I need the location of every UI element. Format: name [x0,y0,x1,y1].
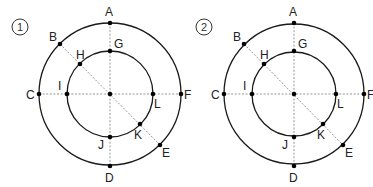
point-label-i: I [58,79,61,93]
point-label-k: K [134,128,142,142]
point-label-h: H [260,48,269,62]
point-k [321,122,326,127]
point-g [292,49,297,54]
point-j [108,135,113,140]
point-label-a: A [105,5,113,19]
point-label-g: G [114,37,123,51]
point-j [292,135,297,140]
point-label-e: E [345,146,353,160]
point-label-l: L [154,97,161,111]
point-d [108,164,113,169]
point-h [78,62,83,67]
diagram-canvas: 1 ABCDEFGHIJKL 2 ABCDEFGHIJKL [0,0,373,187]
diagram-2: 2 ABCDEFGHIJKL [196,5,373,185]
point-b [242,42,247,47]
point-label-h: H [76,48,85,62]
point-label-f: F [184,88,191,102]
point-h [262,62,267,67]
point-label-b: B [233,30,241,44]
concentric-circles-figure: 1 ABCDEFGHIJKL 2 ABCDEFGHIJKL [0,0,373,187]
point-a [292,21,297,26]
point-label-c: C [211,88,220,102]
diagram-number: 1 [17,21,23,33]
point-label-i: I [243,79,246,93]
point-l [334,92,339,97]
point-c [37,92,42,97]
point-i [250,92,255,97]
center-point [108,92,113,97]
center-point [292,92,297,97]
point-f [179,92,184,97]
point-label-e: E [162,146,170,160]
point-b [58,42,63,47]
point-label-a: A [289,5,297,19]
diagram-number: 2 [201,21,207,33]
point-label-l: L [337,97,344,111]
point-i [65,92,70,97]
point-label-j: J [98,138,104,152]
point-label-c: C [26,88,35,102]
point-label-d: D [105,171,114,185]
point-a [108,21,113,26]
point-c [222,92,227,97]
point-label-f: F [367,88,373,102]
point-k [138,122,143,127]
point-d [292,164,297,169]
point-label-b: B [49,30,57,44]
point-label-j: J [282,138,288,152]
point-label-d: D [289,171,298,185]
diagram-1: 1 ABCDEFGHIJKL [12,5,191,185]
point-l [151,92,156,97]
point-g [108,49,113,54]
point-f [362,92,367,97]
point-label-k: K [317,128,325,142]
point-label-g: G [298,37,307,51]
